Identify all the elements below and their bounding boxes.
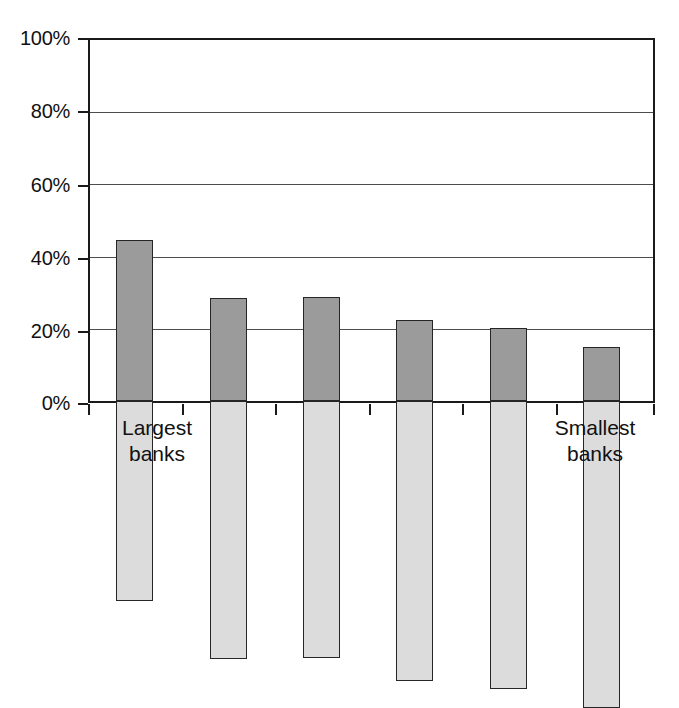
x-tick-mark-0 — [88, 404, 90, 415]
category-label-smallest-banks: Smallest banks — [520, 415, 670, 467]
bar-3-lower-segment — [303, 297, 340, 401]
y-tick-mark-20 — [78, 331, 88, 333]
category-label-smallest-banks-line1: Smallest — [520, 415, 670, 441]
bar-3-upper-segment — [303, 401, 340, 658]
category-label-smallest-banks-line2: banks — [520, 441, 670, 467]
y-tick-label-80: 80% — [8, 101, 70, 121]
gridline-80 — [90, 112, 653, 113]
x-tick-mark-2 — [275, 404, 277, 415]
category-label-largest-banks-line1: Largest — [82, 415, 232, 441]
bar-6-lower-segment — [583, 347, 620, 401]
bar-2-lower-segment — [210, 298, 247, 401]
gridline-40 — [90, 257, 653, 258]
gridline-20 — [90, 329, 653, 330]
category-label-largest-banks: Largest banks — [82, 415, 232, 467]
y-tick-mark-100 — [78, 38, 88, 40]
bar-1-lower-segment — [116, 240, 153, 401]
x-tick-mark-5 — [556, 404, 558, 415]
x-tick-mark-3 — [369, 404, 371, 415]
y-tick-mark-40 — [78, 258, 88, 260]
bar-4-upper-segment — [396, 401, 433, 681]
y-tick-label-100: 100% — [8, 28, 70, 48]
y-tick-mark-80 — [78, 111, 88, 113]
y-tick-label-60: 60% — [8, 175, 70, 195]
bar-5-lower-segment — [490, 328, 527, 401]
y-tick-label-40: 40% — [8, 248, 70, 268]
y-tick-label-0: 0% — [8, 393, 70, 413]
x-tick-mark-6 — [653, 404, 655, 415]
gridline-60 — [90, 184, 653, 185]
category-label-largest-banks-line2: banks — [82, 441, 232, 467]
y-tick-label-20: 20% — [8, 321, 70, 341]
y-tick-mark-0 — [78, 403, 88, 405]
plot-area — [88, 38, 655, 403]
x-tick-mark-4 — [462, 404, 464, 415]
y-tick-mark-60 — [78, 185, 88, 187]
x-tick-mark-1 — [182, 404, 184, 415]
bar-4-lower-segment — [396, 320, 433, 401]
